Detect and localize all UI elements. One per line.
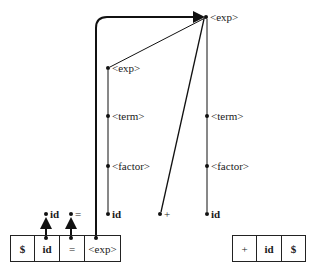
node-plus: + (158, 208, 170, 220)
node-left-term: <term> (106, 110, 145, 122)
edge-plus-root (161, 19, 204, 212)
node-label: = (75, 208, 81, 220)
node-left-id: id (106, 208, 121, 220)
node-label: id (50, 208, 59, 220)
stack-cell-equals: = (60, 236, 85, 261)
node-right-factor: <factor> (205, 160, 249, 172)
input-cell-dollar: $ (282, 236, 305, 261)
stack-cell-dollar: $ (11, 236, 35, 261)
input-cell-plus: + (233, 236, 257, 261)
node-right-term: <term> (205, 110, 244, 122)
parse-stack: $ id = <exp> (10, 235, 121, 262)
stack-cell-exp: <exp> (85, 236, 120, 261)
shifted-token-id: id (44, 208, 59, 220)
node-label: <exp> (210, 11, 238, 23)
node-label: <factor> (211, 160, 249, 172)
node-left-exp: <exp> (106, 62, 140, 74)
node-dot (106, 114, 110, 118)
stack-cell-id: id (35, 236, 60, 261)
node-dot (205, 114, 209, 118)
node-dot (158, 212, 162, 216)
node-dot (204, 15, 208, 19)
input-buffer: + id $ (232, 235, 306, 262)
reduce-arrow (96, 17, 203, 238)
diagram-edges (0, 0, 312, 268)
node-dot (69, 212, 73, 216)
input-cell-id: id (257, 236, 282, 261)
node-left-factor: <factor> (106, 160, 150, 172)
node-label: id (211, 208, 220, 220)
node-dot (44, 212, 48, 216)
node-dot (106, 212, 110, 216)
node-root-exp: <exp> (204, 11, 238, 23)
node-label: id (112, 208, 121, 220)
node-right-id: id (205, 208, 220, 220)
node-label: <exp> (112, 62, 140, 74)
node-dot (106, 164, 110, 168)
node-label: + (164, 208, 170, 220)
node-label: <factor> (112, 160, 150, 172)
edge-left-exp-root (110, 18, 205, 67)
shifted-token-equals: = (69, 208, 81, 220)
node-label: <term> (211, 110, 244, 122)
node-label: <term> (112, 110, 145, 122)
node-dot (106, 66, 110, 70)
node-dot (205, 164, 209, 168)
node-dot (205, 212, 209, 216)
